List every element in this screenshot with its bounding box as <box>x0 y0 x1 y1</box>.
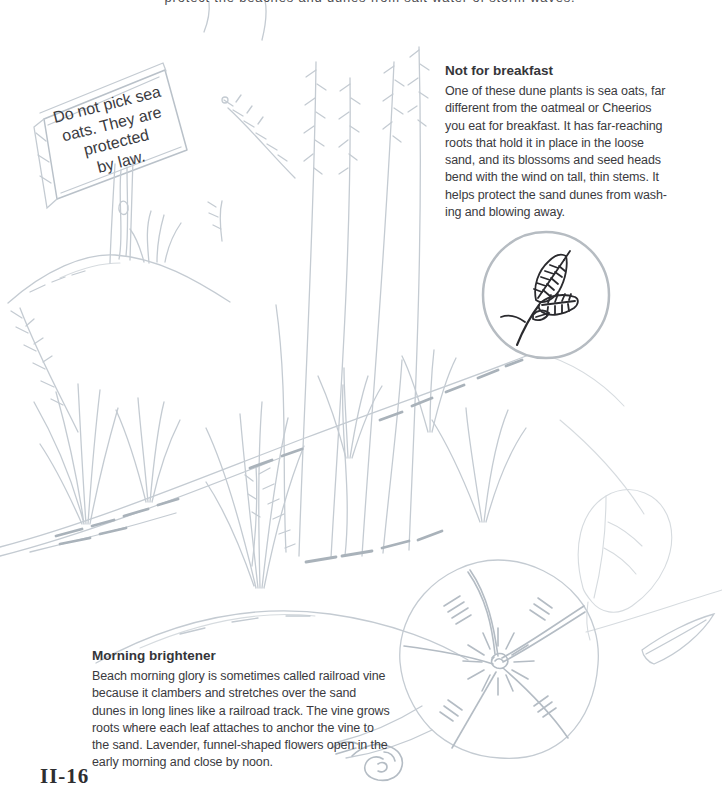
dune-grass-clumps <box>34 350 526 588</box>
page-number: II-16 <box>40 764 89 789</box>
sea-oats-seed-heads <box>304 50 429 174</box>
section-title-morning-brightener: Morning brightener <box>92 648 404 664</box>
faint-pencil-layer <box>60 263 722 648</box>
section-morning-brightener: Morning brightener Beach morning glory i… <box>92 648 404 772</box>
section-body-morning-brightener: Beach morning glory is sometimes called … <box>92 668 404 772</box>
sea-oats-inset <box>483 232 609 358</box>
clipped-header-line: protect the beaches and dunes from salt … <box>140 0 600 5</box>
inset-circle <box>483 232 609 358</box>
section-body-not-for-breakfast: One of these dune plants is sea oats, fa… <box>445 83 717 221</box>
book-page: { "page": { "background_color": "#ffffff… <box>0 0 722 804</box>
dark-pencil-accents <box>56 360 522 562</box>
section-title-not-for-breakfast: Not for breakfast <box>445 63 717 79</box>
section-not-for-breakfast: Not for breakfast One of these dune plan… <box>445 63 717 221</box>
